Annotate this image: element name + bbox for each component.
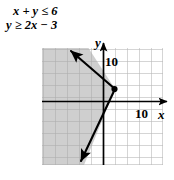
x-axis-name-label: x <box>157 107 165 122</box>
graph-figure: x + y ≤ 6 y ≥ 2x − 3 <box>0 0 174 180</box>
vertex-point <box>111 86 117 92</box>
y-axis-tick-label-10: 10 <box>105 54 118 69</box>
coordinate-plane: 10 10 x y <box>0 0 174 180</box>
y-axis-name-label: y <box>93 35 101 50</box>
x-axis-tick-label-10: 10 <box>135 106 148 121</box>
